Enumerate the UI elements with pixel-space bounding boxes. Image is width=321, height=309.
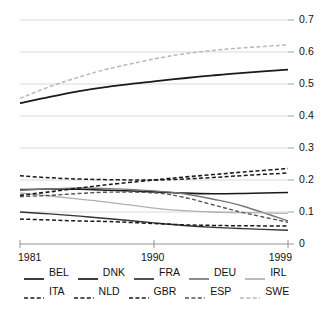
series-line-fra (20, 212, 288, 230)
legend-item-esp[interactable]: ESP (185, 285, 231, 297)
chart-figure: 00.10.20.30.40.50.60.7198119901999BELDNK… (0, 0, 321, 309)
legend-item-fra[interactable]: FRA (134, 266, 180, 278)
chart-legend-row1: BELDNKFRADEUIRL (24, 266, 296, 278)
chart-legend-row2: ITANLDGBRESPSWE (24, 285, 298, 297)
x-axis-tick-label: 1999 (269, 252, 292, 263)
series-line-ita (20, 173, 288, 180)
legend-label: DNK (103, 266, 125, 278)
y-axis-tick-label: 0.1 (299, 206, 314, 217)
legend-label: ITA (49, 285, 65, 297)
legend-item-deu[interactable]: DEU (189, 266, 236, 278)
x-axis-tick-label: 1990 (141, 252, 164, 263)
legend-label: NLD (99, 285, 120, 297)
legend-item-nld[interactable]: NLD (74, 285, 120, 297)
legend-item-dnk[interactable]: DNK (78, 266, 125, 278)
y-axis-tick-label: 0 (299, 238, 305, 249)
y-axis-tick-label: 0.3 (299, 142, 314, 153)
legend-label: GBR (154, 285, 177, 297)
legend-label: ESP (210, 285, 231, 297)
y-axis-tick-label: 0.4 (299, 110, 314, 121)
x-axis-tick-label: 1981 (18, 252, 41, 263)
legend-label: BEL (49, 266, 69, 278)
legend-item-gbr[interactable]: GBR (129, 285, 177, 297)
series-line-dnk (20, 70, 288, 104)
legend-item-bel[interactable]: BEL (24, 266, 69, 278)
y-axis-tick-label: 0.6 (299, 46, 314, 57)
legend-item-irl[interactable]: IRL (245, 266, 286, 278)
y-axis-tick-label: 0.2 (299, 174, 314, 185)
y-axis-tick-label: 0.5 (299, 78, 314, 89)
series-line-irl (20, 193, 288, 213)
legend-label: IRL (270, 266, 286, 278)
legend-label: DEU (214, 266, 236, 278)
y-axis-tick-label: 0.7 (299, 14, 314, 25)
legend-label: SWE (265, 285, 289, 297)
legend-item-ita[interactable]: ITA (24, 285, 65, 297)
legend-item-swe[interactable]: SWE (240, 285, 289, 297)
legend-label: FRA (159, 266, 180, 278)
